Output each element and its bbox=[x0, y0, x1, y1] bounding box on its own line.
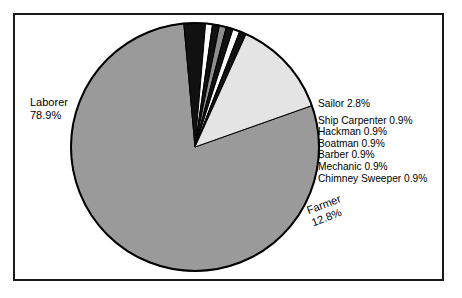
slice-label-laborer-value: 78.9% bbox=[30, 109, 68, 122]
slice-label-boatman: Boatman 0.9% bbox=[318, 138, 460, 150]
slice-label-laborer-name: Laborer bbox=[30, 96, 68, 109]
slice-label-mechanic: Mechanic 0.9% bbox=[318, 161, 460, 173]
slice-label-laborer: Laborer 78.9% bbox=[30, 96, 68, 122]
pie-chart-figure: Laborer 78.9% Sailor 2.8% Ship Carpenter… bbox=[0, 0, 462, 298]
slice-label-hackman: Hackman 0.9% bbox=[318, 126, 460, 138]
slice-label-chimney-sweeper: Chimney Sweeper 0.9% bbox=[318, 173, 460, 185]
slice-callout-labels: Sailor 2.8% Ship Carpenter 0.9% Hackman … bbox=[318, 98, 460, 184]
slice-label-sailor: Sailor 2.8% bbox=[318, 98, 460, 110]
slice-label-ship-carpenter: Ship Carpenter 0.9% bbox=[318, 115, 460, 127]
slice-label-barber: Barber 0.9% bbox=[318, 149, 460, 161]
pie-slices-group bbox=[71, 23, 319, 271]
